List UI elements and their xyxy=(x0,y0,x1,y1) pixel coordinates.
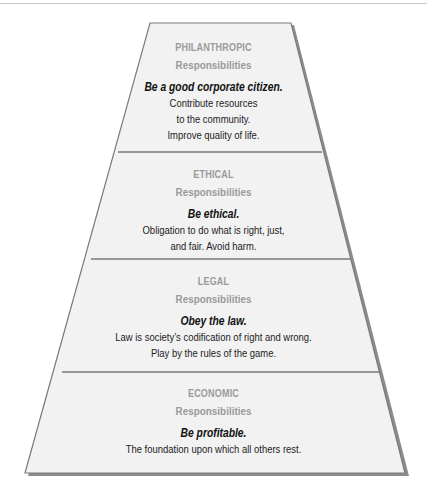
tier-title: ECONOMIC xyxy=(30,384,397,402)
tier-subtitle: Responsibilities xyxy=(30,290,397,308)
tier-line: Obligation to do what is right, just, xyxy=(30,222,397,238)
tier-subtitle: Responsibilities xyxy=(30,56,397,74)
tier-line: The foundation upon which all others res… xyxy=(30,441,397,457)
tier-philanthropic: PHILANTHROPIC Responsibilities Be a good… xyxy=(0,38,427,143)
tier-line: Improve quality of life. xyxy=(30,127,397,143)
tier-motto: Be profitable. xyxy=(30,425,397,441)
tier-title: ETHICAL xyxy=(30,165,397,183)
tier-line: and fair. Avoid harm. xyxy=(30,238,397,254)
tier-motto: Obey the law. xyxy=(30,313,397,329)
tier-line: Law is society’s codification of right a… xyxy=(30,329,397,345)
tier-line: to the community. xyxy=(30,111,397,127)
tier-motto: Be ethical. xyxy=(30,206,397,222)
tier-title: LEGAL xyxy=(30,272,397,290)
tier-line: Contribute resources xyxy=(30,95,397,111)
tier-line: Play by the rules of the game. xyxy=(30,345,397,361)
tier-legal: LEGAL Responsibilities Obey the law. Law… xyxy=(0,272,427,361)
tier-subtitle: Responsibilities xyxy=(30,402,397,420)
tier-economic: ECONOMIC Responsibilities Be profitable.… xyxy=(0,384,427,457)
tier-ethical: ETHICAL Responsibilities Be ethical. Obl… xyxy=(0,165,427,254)
tier-motto: Be a good corporate citizen. xyxy=(30,79,397,95)
tier-subtitle: Responsibilities xyxy=(30,183,397,201)
tier-title: PHILANTHROPIC xyxy=(30,38,397,56)
